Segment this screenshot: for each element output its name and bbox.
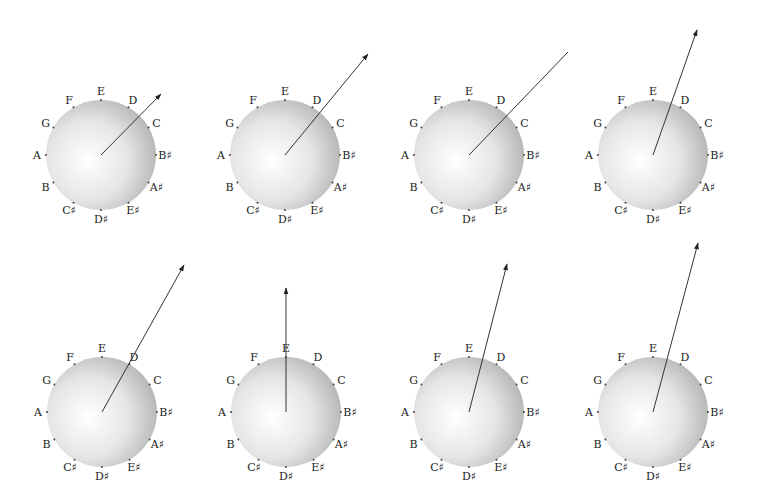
note-label: E [649, 342, 657, 355]
note-label: A [584, 406, 594, 419]
note-tick-mark [100, 209, 102, 211]
note-tick-mark [652, 466, 654, 468]
note-tick-mark [237, 439, 239, 441]
note-label: F [250, 351, 258, 364]
note-tick-mark [236, 127, 238, 129]
note-tick-mark [100, 99, 102, 101]
note-label: F [617, 94, 625, 107]
note-label: B [594, 181, 602, 194]
note-label: D♯ [278, 213, 292, 226]
note-tick-mark [129, 459, 131, 461]
note-label: C♯ [63, 461, 77, 474]
note-tick-mark [312, 202, 314, 204]
note-label: D♯ [646, 470, 660, 483]
note-label: C [520, 117, 528, 130]
note-label: C [152, 117, 160, 130]
note-tick-mark [420, 182, 422, 184]
note-label: D [129, 94, 138, 107]
note-label: F [433, 94, 441, 107]
note-label: D♯ [279, 470, 293, 483]
note-tick-mark [413, 154, 415, 156]
note-tick-mark [73, 202, 75, 204]
note-label: G [225, 117, 234, 130]
note-tick-mark [313, 459, 315, 461]
note-tick-mark [128, 202, 130, 204]
note-circle-panel: B♯CDEFGABC♯D♯E♯A♯ [584, 243, 724, 483]
note-tick-mark [155, 154, 157, 156]
note-tick-mark [441, 106, 443, 108]
note-label: E♯ [310, 204, 323, 217]
note-tick-mark [604, 384, 606, 386]
note-label: D♯ [95, 470, 109, 483]
note-label: B♯ [710, 149, 723, 162]
note-tick-mark [441, 459, 443, 461]
note-label: A [400, 406, 410, 419]
note-tick-mark [496, 363, 498, 365]
note-label: A♯ [517, 438, 531, 451]
note-tick-mark [148, 127, 150, 129]
note-label: B♯ [526, 149, 539, 162]
note-tick-mark [597, 154, 599, 156]
note-tick-mark [625, 106, 627, 108]
note-label: B♯ [342, 149, 355, 162]
note-tick-mark [496, 106, 498, 108]
note-label: C [520, 374, 528, 387]
note-label: C [153, 374, 161, 387]
note-label: D [681, 351, 690, 364]
note-label: B [227, 438, 235, 451]
note-label: D♯ [462, 213, 476, 226]
note-tick-mark [285, 466, 287, 468]
note-circle-panel: B♯CDEFGABC♯D♯E♯A♯ [400, 52, 568, 226]
note-tick-mark [156, 411, 158, 413]
note-label: C♯ [246, 204, 260, 217]
note-tick-mark [149, 384, 151, 386]
note-label: E♯ [678, 204, 691, 217]
note-label: A♯ [334, 438, 348, 451]
note-tick-mark [468, 209, 470, 211]
note-label: D [130, 351, 139, 364]
note-label: B [594, 438, 602, 451]
note-tick-mark [625, 459, 627, 461]
note-tick-mark [496, 459, 498, 461]
note-label: C [337, 374, 345, 387]
note-circle-panel: B♯CDEFGABC♯D♯E♯A♯ [217, 288, 357, 483]
note-tick-mark [680, 106, 682, 108]
note-circle-diagram: B♯CDEFGABC♯D♯E♯A♯B♯CDEFGABC♯D♯E♯A♯B♯CDEF… [0, 0, 759, 499]
note-tick-mark [496, 202, 498, 204]
note-label: E♯ [494, 461, 507, 474]
note-label: D♯ [462, 470, 476, 483]
note-tick-mark [707, 154, 709, 156]
note-label: G [593, 117, 602, 130]
note-label: B [42, 181, 50, 194]
note-tick-mark [332, 127, 334, 129]
note-tick-mark [420, 384, 422, 386]
note-label: B [410, 438, 418, 451]
note-tick-mark [284, 209, 286, 211]
note-label: A [33, 406, 43, 419]
note-label: B♯ [710, 406, 723, 419]
note-label: G [409, 117, 418, 130]
note-tick-mark [680, 459, 682, 461]
note-label: C [704, 117, 712, 130]
note-tick-mark [625, 202, 627, 204]
note-tick-mark [74, 363, 76, 365]
note-label: A♯ [150, 438, 164, 451]
note-label: E [465, 85, 473, 98]
note-label: B♯ [526, 406, 539, 419]
note-tick-mark [230, 411, 232, 413]
note-tick-mark [257, 106, 259, 108]
note-tick-mark [680, 202, 682, 204]
note-tick-mark [604, 439, 606, 441]
note-label: E [97, 85, 105, 98]
note-label: G [41, 117, 50, 130]
note-tick-mark [74, 459, 76, 461]
note-tick-mark [700, 127, 702, 129]
note-label: E♯ [126, 204, 139, 217]
note-tick-mark [597, 411, 599, 413]
note-tick-mark [236, 182, 238, 184]
note-label: A [32, 149, 42, 162]
note-label: A [216, 149, 226, 162]
note-tick-mark [468, 99, 470, 101]
note-label: B [226, 181, 234, 194]
note-tick-mark [523, 411, 525, 413]
